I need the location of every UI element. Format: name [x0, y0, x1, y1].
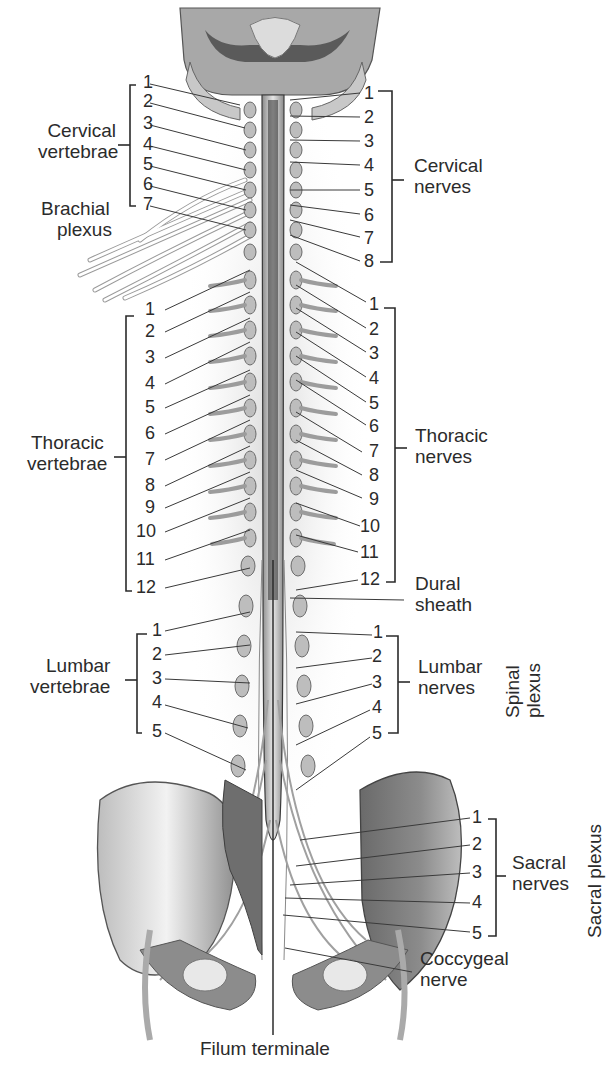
thoracic-nerves-label: Thoracic nerves	[415, 425, 488, 467]
thoracic-vertebra-4: 4	[145, 374, 155, 392]
cervical-nerve-4: 4	[364, 156, 374, 174]
lumbar-nerve-5: 5	[372, 724, 382, 742]
lumbar-nerve-1: 1	[373, 623, 383, 641]
lumbar-nerves-line2: nerves	[418, 677, 482, 698]
cervical-vertebrae-label: Cervical vertebrae	[38, 120, 118, 162]
brachial-plexus-line1: Brachial	[41, 198, 112, 219]
spinal-plexus-line1: Spinal	[502, 663, 523, 718]
thoracic-nerve-8: 8	[369, 466, 379, 484]
sacral-nerves-line1: Sacral	[512, 852, 569, 873]
sacral-nerves-line2: nerves	[512, 873, 569, 894]
dural-sheath-line1: Dural	[415, 573, 472, 594]
dural-sheath-line2: sheath	[415, 594, 472, 615]
cervical-nerve-1: 1	[364, 84, 374, 102]
thoracic-nerve-5: 5	[369, 394, 379, 412]
thoracic-vertebra-6: 6	[145, 424, 155, 442]
cervical-nerve-8: 8	[364, 252, 374, 270]
thoracic-nerves-line2: nerves	[415, 446, 488, 467]
thoracic-vertebra-2: 2	[145, 322, 155, 340]
thoracic-nerve-9: 9	[369, 490, 379, 508]
lumbar-vertebrae-line2: vertebrae	[30, 676, 110, 697]
thoracic-vertebra-5: 5	[145, 398, 155, 416]
lumbar-nerve-2: 2	[372, 647, 382, 665]
cervical-nerve-6: 6	[364, 206, 374, 224]
sacral-nerve-1: 1	[472, 808, 482, 826]
coccygeal-nerve-line2: nerve	[420, 969, 509, 990]
thoracic-vertebra-12: 12	[136, 578, 156, 596]
lumbar-nerves-line1: Lumbar	[418, 656, 482, 677]
cervical-nerve-2: 2	[364, 108, 374, 126]
lumbar-vertebra-4: 4	[152, 693, 162, 711]
thoracic-vertebra-9: 9	[145, 498, 155, 516]
thoracic-nerve-11: 11	[360, 543, 379, 561]
brachial-plexus-line2: plexus	[41, 219, 112, 240]
thoracic-vertebra-7: 7	[145, 450, 155, 468]
cervical-nerve-3: 3	[364, 132, 374, 150]
sacral-plexus-label: Sacral plexus	[584, 824, 605, 938]
cervical-vertebra-6: 6	[143, 175, 153, 193]
cervical-nerves-label: Cervical nerves	[414, 155, 483, 197]
spinal-plexus-line2: plexus	[523, 663, 544, 718]
cervical-vertebra-2: 2	[143, 92, 153, 110]
lumbar-vertebrae-label: Lumbar vertebrae	[30, 655, 110, 697]
sacral-nerve-3: 3	[472, 863, 482, 881]
thoracic-nerve-7: 7	[369, 442, 379, 460]
lumbar-nerve-4: 4	[372, 698, 382, 716]
cervical-vertebrae-line2: vertebrae	[38, 141, 118, 162]
thoracic-vertebrae-line2: vertebrae	[27, 453, 107, 474]
thoracic-vertebrae-line1: Thoracic	[27, 432, 107, 453]
thoracic-vertebra-8: 8	[145, 476, 155, 494]
cervical-nerves-line1: Cervical	[414, 155, 483, 176]
cervical-nerves-line2: nerves	[414, 176, 483, 197]
thoracic-nerve-10: 10	[360, 517, 380, 535]
lumbar-vertebra-3: 3	[152, 669, 162, 687]
cervical-vertebrae-line1: Cervical	[38, 120, 116, 141]
thoracic-nerve-4: 4	[369, 369, 379, 387]
cervical-nerve-5: 5	[364, 181, 374, 199]
spinal-plexus-label: Spinal plexus	[502, 663, 544, 718]
thoracic-nerve-2: 2	[369, 320, 379, 338]
thoracic-vertebra-11: 11	[136, 550, 155, 568]
coccygeal-nerve-line1: Coccygeal	[420, 948, 509, 969]
lumbar-vertebra-5: 5	[152, 722, 162, 740]
thoracic-nerve-3: 3	[369, 344, 379, 362]
thoracic-vertebra-10: 10	[136, 522, 156, 540]
thoracic-vertebra-1: 1	[145, 300, 155, 318]
lumbar-vertebra-2: 2	[152, 645, 162, 663]
thoracic-vertebra-3: 3	[145, 348, 155, 366]
cervical-nerve-7: 7	[364, 229, 374, 247]
thoracic-vertebrae-label: Thoracic vertebrae	[27, 432, 107, 474]
cervical-vertebra-4: 4	[143, 135, 153, 153]
filum-terminale-label: Filum terminale	[200, 1038, 330, 1059]
sacral-nerve-5: 5	[472, 924, 482, 942]
spinal-cord	[259, 95, 288, 1035]
cervical-vertebra-1: 1	[143, 73, 153, 91]
cervical-vertebra-5: 5	[143, 155, 153, 173]
coccygeal-nerve-label: Coccygeal nerve	[420, 948, 509, 990]
dural-sheath-label: Dural sheath	[415, 573, 472, 615]
cervical-vertebra-7: 7	[143, 195, 153, 213]
lumbar-vertebrae-line1: Lumbar	[30, 655, 110, 676]
sacral-nerve-2: 2	[472, 835, 482, 853]
brachial-plexus-label: Brachial plexus	[41, 198, 112, 240]
thoracic-nerve-6: 6	[369, 417, 379, 435]
lumbar-vertebra-1: 1	[152, 621, 162, 639]
lumbar-nerves-label: Lumbar nerves	[418, 656, 482, 698]
thoracic-nerve-1: 1	[369, 295, 379, 313]
sacral-nerves-label: Sacral nerves	[512, 852, 569, 894]
thoracic-nerve-12: 12	[360, 570, 380, 588]
sacral-nerve-4: 4	[472, 893, 482, 911]
lumbar-nerve-3: 3	[372, 673, 382, 691]
thoracic-nerves-line1: Thoracic	[415, 425, 488, 446]
cervical-vertebra-3: 3	[143, 114, 153, 132]
